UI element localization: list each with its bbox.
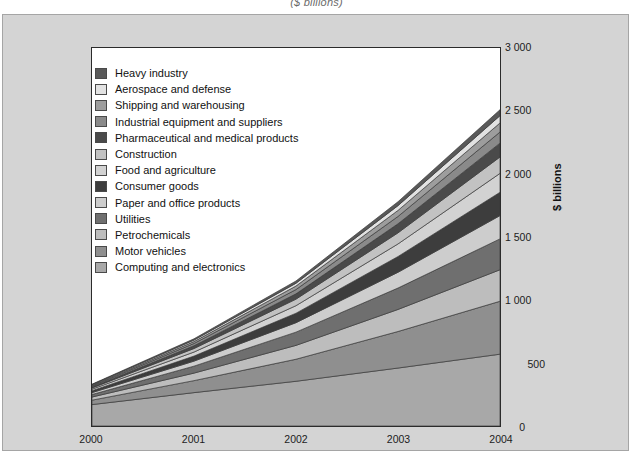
legend-swatch-icon — [95, 213, 107, 224]
legend-item: Construction — [95, 146, 298, 162]
chart-panel: 05001 0001 5002 0002 5003 000 2000200120… — [2, 14, 629, 451]
legend-item-label: Paper and office products — [115, 197, 240, 209]
legend-item-label: Pharmaceutical and medical products — [115, 132, 298, 144]
legend-item: Shipping and warehousing — [95, 97, 298, 113]
legend-swatch-icon — [95, 262, 107, 273]
legend-item: Industrial equipment and suppliers — [95, 114, 298, 130]
legend-item: Heavy industry — [95, 65, 298, 81]
legend-item-label: Utilities — [115, 213, 150, 225]
chart-screenshot: ($ billions) 05001 0001 5002 0002 5003 0… — [0, 0, 633, 455]
legend-item-label: Motor vehicles — [115, 245, 186, 257]
x-tick-label: 2004 — [471, 433, 531, 445]
chart-legend: Heavy industryAerospace and defenseShipp… — [95, 65, 298, 275]
legend-item-label: Shipping and warehousing — [115, 99, 245, 111]
legend-item: Utilities — [95, 211, 298, 227]
legend-item: Food and agriculture — [95, 162, 298, 178]
y-tick-label: 0 — [505, 421, 525, 433]
legend-item-label: Petrochemicals — [115, 229, 190, 241]
legend-item-label: Food and agriculture — [115, 164, 216, 176]
legend-swatch-icon — [95, 132, 107, 143]
legend-item: Motor vehicles — [95, 243, 298, 259]
y-tick-label: 1 000 — [505, 294, 561, 306]
legend-item-label: Aerospace and defense — [115, 83, 231, 95]
legend-item-label: Heavy industry — [115, 67, 188, 79]
legend-swatch-icon — [95, 197, 107, 208]
legend-item-label: Consumer goods — [115, 180, 199, 192]
x-tick-label: 2000 — [61, 433, 121, 445]
legend-swatch-icon — [95, 165, 107, 176]
legend-swatch-icon — [95, 149, 107, 160]
legend-item: Computing and electronics — [95, 259, 298, 275]
legend-item: Consumer goods — [95, 178, 298, 194]
y-tick-label: 2 500 — [505, 104, 561, 116]
y-axis-title: $ billions — [551, 163, 563, 211]
x-tick-label: 2001 — [164, 433, 224, 445]
figure-title: ($ billions) — [0, 0, 633, 8]
x-tick-label: 2002 — [266, 433, 326, 445]
y-tick-label: 3 000 — [505, 41, 561, 53]
legend-item: Pharmaceutical and medical products — [95, 130, 298, 146]
legend-item: Petrochemicals — [95, 227, 298, 243]
legend-swatch-icon — [95, 229, 107, 240]
x-tick-label: 2003 — [369, 433, 429, 445]
legend-swatch-icon — [95, 116, 107, 127]
legend-item: Aerospace and defense — [95, 81, 298, 97]
legend-swatch-icon — [95, 68, 107, 79]
y-tick-label: 500 — [505, 358, 545, 370]
y-tick-label: 1 500 — [505, 231, 561, 243]
legend-swatch-icon — [95, 100, 107, 111]
legend-swatch-icon — [95, 246, 107, 257]
legend-item: Paper and office products — [95, 195, 298, 211]
legend-item-label: Construction — [115, 148, 177, 160]
legend-swatch-icon — [95, 181, 107, 192]
legend-swatch-icon — [95, 84, 107, 95]
legend-item-label: Industrial equipment and suppliers — [115, 116, 283, 128]
legend-item-label: Computing and electronics — [115, 261, 245, 273]
